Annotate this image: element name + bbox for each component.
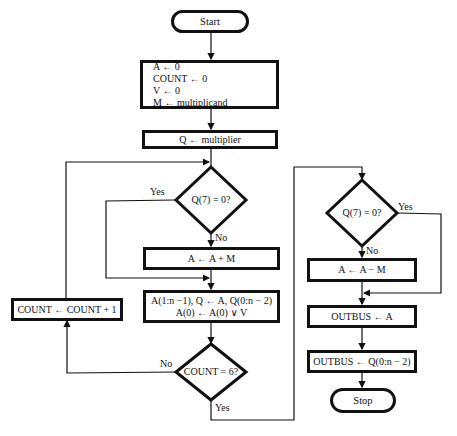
- edge-label-left-no: No: [215, 232, 227, 244]
- edge-label-left-yes: Yes: [150, 186, 165, 198]
- load-multiplier-box: Q ← multiplier: [142, 130, 278, 149]
- edge-label-right-no: No: [366, 245, 378, 257]
- output-q-box: OUTBUS ← Q(0:n − 2): [307, 350, 417, 373]
- decision-q7-right-label: Q(7) = 0?: [327, 207, 397, 219]
- start-label: Start: [200, 16, 220, 27]
- add-box: A ← A + M: [143, 247, 280, 270]
- shift-line-2: A(0) ← A(0) ∨ V: [176, 307, 248, 319]
- increment-count-box: COUNT ← COUNT + 1: [11, 298, 123, 321]
- output-q-label: OUTBUS ← Q(0:n − 2): [313, 356, 410, 368]
- stop-label: Stop: [353, 395, 372, 406]
- start-terminal: Start: [171, 10, 249, 33]
- init-line-4: M ← multiplicand: [153, 97, 227, 109]
- decision-count-label: COUNT = 6?: [176, 366, 246, 378]
- edge-label-right-yes: Yes: [398, 201, 413, 213]
- output-a-label: OUTBUS ← A: [331, 311, 393, 323]
- shift-line-1: A(1:n −1), Q ← A, Q(0:n − 2): [151, 295, 272, 307]
- output-a-box: OUTBUS ← A: [307, 305, 417, 328]
- add-label: A ← A + M: [188, 253, 235, 265]
- load-multiplier-label: Q ← multiplier: [179, 134, 241, 146]
- subtract-box: A ← A − M: [307, 258, 417, 282]
- shift-box: A(1:n −1), Q ← A, Q(0:n − 2) A(0) ← A(0)…: [143, 290, 280, 323]
- stop-terminal: Stop: [330, 388, 396, 413]
- init-line-2: COUNT ← 0: [153, 73, 227, 85]
- edge-label-count-no: No: [160, 358, 172, 370]
- init-box: A ← 0 COUNT ← 0 V ← 0 M ← multiplicand: [140, 60, 279, 109]
- subtract-label: A ← A − M: [338, 264, 385, 276]
- decision-q7-left-label: Q(7) = 0?: [176, 194, 246, 206]
- increment-count-label: COUNT ← COUNT + 1: [17, 304, 116, 316]
- edge-label-count-yes: Yes: [215, 402, 230, 414]
- init-line-3: V ← 0: [153, 85, 227, 97]
- init-line-1: A ← 0: [153, 61, 227, 73]
